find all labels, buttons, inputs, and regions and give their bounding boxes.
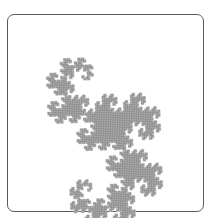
dragon-curve-figure — [0, 0, 214, 218]
